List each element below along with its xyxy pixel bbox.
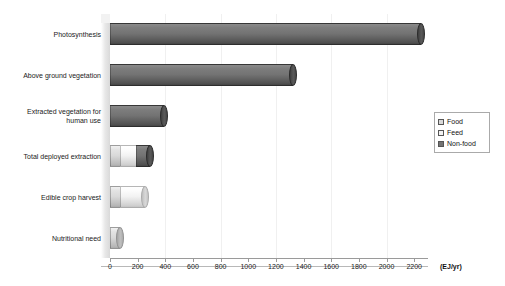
bar-segment-divider: [110, 228, 111, 248]
bar-segment-divider: [110, 106, 111, 126]
bar-segment-divider: [120, 146, 121, 166]
x-axis-tick-label: 0: [108, 263, 112, 270]
x-axis-unit-label: (EJ/yr): [440, 263, 462, 270]
bar-segment[interactable]: [110, 105, 164, 127]
x-axis-tick: [193, 258, 194, 262]
legend-swatch-non-food: [438, 141, 444, 147]
category-label: Nutritional need: [5, 233, 101, 242]
gridline: [276, 14, 277, 258]
legend-item-food[interactable]: Food: [438, 116, 486, 127]
gridline: [387, 14, 388, 258]
category-label: Above ground vegetation: [5, 71, 101, 80]
category-label: Extracted vegetation for human use: [5, 107, 101, 125]
bar-end-cap: [160, 105, 168, 127]
x-axis-tick: [387, 258, 388, 262]
bar-end-cap: [417, 23, 425, 45]
x-axis-tick-label: 800: [215, 263, 227, 270]
bar-segment[interactable]: [120, 145, 136, 167]
gridline: [165, 14, 166, 258]
bar-segment-divider: [110, 24, 111, 44]
bar-end-cap: [146, 145, 154, 167]
bar-segment-divider: [110, 187, 111, 207]
gridline: [221, 14, 222, 258]
category-label: Total deployed extraction: [5, 152, 101, 161]
bar-end-cap: [289, 64, 297, 86]
legend-label-feed: Feed: [447, 129, 463, 136]
x-axis-line: [110, 258, 428, 259]
x-axis-tick-label: 1800: [351, 263, 367, 270]
bar-end-cap: [116, 227, 124, 249]
x-axis-tick: [221, 258, 222, 262]
x-axis-tick: [414, 258, 415, 262]
chart-container: PhotosynthesisAbove ground vegetationExt…: [0, 0, 505, 286]
x-axis-tick-label: 2200: [406, 263, 422, 270]
legend-swatch-food: [438, 119, 444, 125]
x-axis-tick-label: 400: [159, 263, 171, 270]
x-axis-tick: [248, 258, 249, 262]
bar-segment-divider: [136, 146, 137, 166]
x-axis-tick: [331, 258, 332, 262]
x-axis-tick: [138, 258, 139, 262]
legend-item-feed[interactable]: Feed: [438, 127, 486, 138]
bar-segment[interactable]: [110, 23, 421, 45]
bar-segment-divider: [110, 65, 111, 85]
bar-segment-divider: [120, 187, 121, 207]
x-axis-tick: [110, 258, 111, 262]
bar-end-cap: [141, 186, 149, 208]
gridline: [331, 14, 332, 258]
x-axis-tick: [304, 258, 305, 262]
legend-swatch-feed: [438, 130, 444, 136]
x-axis-tick: [359, 258, 360, 262]
bar-segment[interactable]: [110, 64, 293, 86]
chart-3d-wall-top: [101, 14, 110, 23]
category-label: Edible crop harvest: [5, 193, 101, 202]
x-axis-tick-label: 600: [187, 263, 199, 270]
legend-item-non-food[interactable]: Non-food: [438, 138, 486, 149]
x-axis-tick-label: 200: [132, 263, 144, 270]
plot-area: [110, 14, 428, 258]
legend-label-food: Food: [447, 118, 463, 125]
x-axis-tick: [165, 258, 166, 262]
category-label: Photosynthesis: [5, 30, 101, 39]
legend-label-non-food: Non-food: [447, 140, 476, 147]
bar-segment[interactable]: [110, 145, 120, 167]
x-axis-tick-label: 2000: [379, 263, 395, 270]
x-axis-tick-label: 1600: [323, 263, 339, 270]
bar-segment-divider: [110, 146, 111, 166]
bar-segment[interactable]: [110, 186, 120, 208]
chart-3d-wall: [101, 14, 110, 258]
x-axis-tick: [276, 258, 277, 262]
x-axis-tick-label: 1200: [268, 263, 284, 270]
x-axis-tick-label: 1400: [296, 263, 312, 270]
chart-legend[interactable]: Food Feed Non-food: [434, 112, 490, 153]
x-axis-tick-label: 1000: [240, 263, 256, 270]
